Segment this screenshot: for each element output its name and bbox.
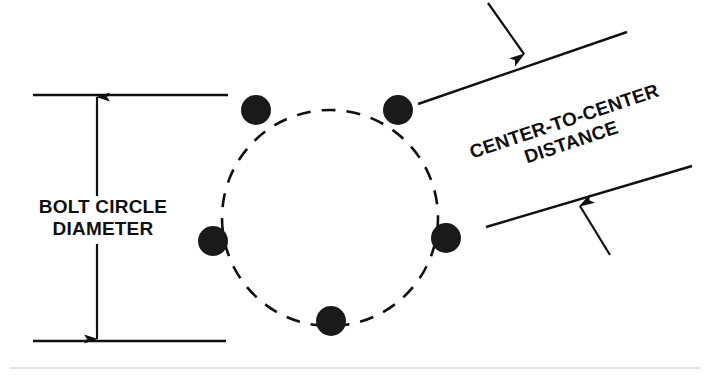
diagram-canvas	[0, 0, 705, 375]
leader-arrow-upper	[488, 3, 524, 54]
bolt-bottom	[316, 306, 346, 336]
bolt-right	[431, 223, 461, 253]
bolt-left	[198, 226, 228, 256]
bolt-top-right	[383, 95, 413, 125]
leader-line-upper	[418, 32, 627, 104]
bolt-circle-diagram: BOLT CIRCLE DIAMETER CENTER-TO-CENTERDIS…	[0, 0, 705, 375]
bolt-top-left	[241, 95, 271, 125]
bolt-circle-diameter-label: BOLT CIRCLE DIAMETER	[18, 196, 188, 241]
bolt-circle-path	[222, 110, 438, 326]
leader-arrow-lower	[580, 206, 610, 255]
leader-line-lower	[486, 166, 692, 227]
